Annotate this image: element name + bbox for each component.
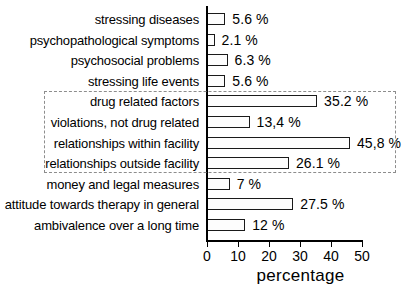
x-axis-line	[206, 240, 363, 242]
bar-row: stressing diseases5.6 %	[0, 10, 403, 30]
plot-area: stressing diseases5.6 %psychopathologica…	[0, 0, 403, 294]
x-tick-label: 20	[254, 248, 284, 264]
x-tick-mark	[331, 242, 332, 247]
bar	[208, 178, 230, 190]
bar-row: stressing life events5.6 %	[0, 72, 403, 92]
bar-value-label: 7 %	[237, 175, 261, 193]
x-tick-label: 0	[192, 248, 222, 264]
x-tick-label: 50	[347, 248, 377, 264]
x-tick-mark	[362, 242, 363, 247]
bar-row: psychosocial problems6.3 %	[0, 51, 403, 71]
bar-value-label: 26.1 %	[296, 154, 340, 172]
bar-row: ambivalence over a long time12 %	[0, 216, 403, 236]
bar-category-label: attitude towards therapy in general	[0, 196, 199, 213]
bar	[208, 116, 250, 128]
x-tick-label: 40	[316, 248, 346, 264]
bar-value-label: 35.2 %	[324, 92, 368, 110]
bar	[208, 219, 245, 231]
bar-category-label: psychopathological symptoms	[0, 32, 199, 49]
bar	[208, 54, 228, 66]
bar-row: attitude towards therapy in general27.5 …	[0, 195, 403, 215]
bar	[208, 198, 293, 210]
bar-category-label: relationships within facility	[0, 135, 199, 152]
bar-value-label: 5.6 %	[232, 72, 268, 90]
bar-category-label: stressing life events	[0, 73, 199, 90]
bar-row: drug related factors35.2 %	[0, 92, 403, 112]
bar	[208, 157, 289, 169]
bar-value-label: 6.3 %	[235, 51, 271, 69]
bar-category-label: drug related factors	[0, 93, 199, 110]
bar-value-label: 2.1 %	[222, 31, 258, 49]
x-axis-label: percentage	[208, 266, 393, 286]
bar-row: money and legal measures7 %	[0, 175, 403, 195]
x-tick-mark	[300, 242, 301, 247]
x-tick-label: 10	[223, 248, 253, 264]
bar-value-label: 13,4 %	[257, 113, 301, 131]
bar	[208, 137, 350, 149]
bar-category-label: stressing diseases	[0, 11, 199, 28]
bar-row: violations, not drug related13,4 %	[0, 113, 403, 133]
bar	[208, 95, 317, 107]
bar-value-label: 12 %	[252, 216, 284, 234]
bar-category-label: ambivalence over a long time	[0, 217, 199, 234]
bar-row: relationships within facility45,8 %	[0, 134, 403, 154]
bar-value-label: 45,8 %	[357, 134, 401, 152]
bar	[208, 34, 215, 46]
bar-category-label: relationships outside facility	[0, 155, 199, 172]
bar-value-label: 5.6 %	[232, 10, 268, 28]
x-tick-mark	[269, 242, 270, 247]
bar-category-label: money and legal measures	[0, 176, 199, 193]
x-tick-label: 30	[285, 248, 315, 264]
bar-row: psychopathological symptoms2.1 %	[0, 31, 403, 51]
x-tick-mark	[238, 242, 239, 247]
bar-category-label: psychosocial problems	[0, 52, 199, 69]
bar	[208, 75, 225, 87]
x-tick-mark	[207, 242, 208, 247]
bar-value-label: 27.5 %	[300, 195, 344, 213]
bar-category-label: violations, not drug related	[0, 114, 199, 131]
bar-row: relationships outside facility26.1 %	[0, 154, 403, 174]
bar	[208, 13, 225, 25]
bar-chart: ········································…	[0, 0, 403, 294]
